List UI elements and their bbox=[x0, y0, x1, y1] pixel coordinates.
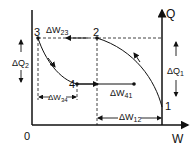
thermo-cycle-diagram: Q W 0 3 2 4 1 ΔW23 ΔQ2 ΔQ1 ΔW34 ΔW41 ΔW1… bbox=[0, 0, 191, 147]
w-axis-label: W bbox=[172, 132, 184, 146]
point-2-label: 2 bbox=[93, 26, 99, 38]
q-axis-label: Q bbox=[166, 7, 175, 21]
point-4 bbox=[75, 82, 79, 86]
point-3-label: 3 bbox=[34, 26, 40, 38]
dw41-label: ΔW41 bbox=[110, 88, 132, 99]
point-1-label: 1 bbox=[165, 100, 171, 112]
point-4-label: 4 bbox=[69, 78, 75, 90]
dw12-label: ΔW12 bbox=[119, 112, 141, 123]
dq2-label: ΔQ2 bbox=[12, 58, 29, 69]
dw34-label: ΔW34 bbox=[48, 93, 68, 103]
point-41-end bbox=[132, 82, 136, 86]
dq1-label: ΔQ1 bbox=[167, 66, 184, 77]
dw23-label: ΔW23 bbox=[46, 25, 68, 36]
origin-label: 0 bbox=[24, 130, 30, 142]
